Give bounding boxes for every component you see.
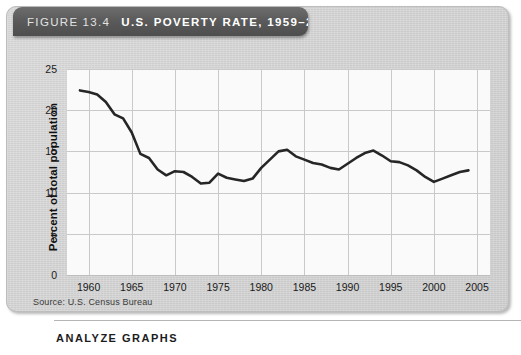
figure-title: U.S. POVERTY RATE, 1959–2004: [121, 16, 308, 28]
y-axis-tick-label: 10: [31, 187, 57, 198]
x-axis-tick-label: 1975: [206, 281, 229, 293]
section-divider: [54, 320, 521, 321]
x-axis-tick-label: 1970: [163, 281, 186, 293]
y-axis-tick-label: 25: [31, 64, 57, 75]
x-axis-tick-label: 1965: [120, 281, 143, 293]
figure-number: 13.4: [83, 16, 111, 28]
x-axis-tick-label: 1980: [250, 281, 273, 293]
plot-area: [67, 69, 490, 275]
y-axis-tick-label: 20: [31, 105, 57, 116]
x-axis-tick-labels: 1960196519701975198019851990199520002005: [67, 281, 490, 295]
x-axis-tick-label: 1960: [77, 281, 100, 293]
y-axis-tick-label: 5: [31, 229, 57, 240]
analyze-graphs-section: ANALYZE GRAPHS: [54, 320, 521, 355]
y-axis-tick-label: 15: [31, 146, 57, 157]
figure-label: FIGURE: [27, 16, 79, 28]
analyze-graphs-heading: ANALYZE GRAPHS: [56, 332, 178, 344]
y-axis-tick-label: 0: [31, 270, 57, 281]
poverty-rate-line-series: [67, 69, 490, 275]
figure-title-banner: FIGURE 13.4 U.S. POVERTY RATE, 1959–2004: [13, 7, 308, 36]
x-axis-tick-label: 2005: [465, 281, 488, 293]
figure-panel: FIGURE 13.4 U.S. POVERTY RATE, 1959–2004…: [6, 6, 509, 312]
x-axis-tick-label: 1995: [379, 281, 402, 293]
x-axis-tick-label: 1985: [293, 281, 316, 293]
source-note: Source: U.S. Census Bureau: [33, 297, 152, 307]
x-axis-tick-label: 1990: [336, 281, 359, 293]
data-line: [80, 90, 468, 183]
chart-area: [61, 63, 490, 275]
grid-line-horizontal: [67, 275, 490, 276]
y-axis-tick-labels: 0510152025: [27, 63, 57, 275]
x-axis-tick-label: 2000: [422, 281, 445, 293]
